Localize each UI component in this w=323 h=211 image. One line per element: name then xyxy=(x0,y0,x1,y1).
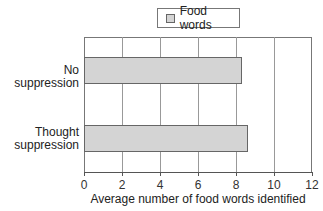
x-tick-label: 12 xyxy=(300,178,323,192)
x-tick-label: 6 xyxy=(186,178,210,192)
category-label-thought-suppression: Thought suppression xyxy=(14,126,79,152)
legend: Food words xyxy=(157,8,240,28)
gridline xyxy=(274,37,275,172)
category-label-no-suppression: No suppression xyxy=(0,64,79,90)
legend-label: Food words xyxy=(180,4,239,32)
x-tick-label: 0 xyxy=(72,178,96,192)
x-tick xyxy=(236,172,237,176)
x-tick-label: 10 xyxy=(262,178,286,192)
x-tick-label: 8 xyxy=(224,178,248,192)
x-tick xyxy=(312,172,313,176)
x-tick xyxy=(198,172,199,176)
bar-no-suppression xyxy=(84,57,242,84)
x-tick xyxy=(84,172,85,176)
x-tick-label: 2 xyxy=(110,178,134,192)
bar-thought-suppression xyxy=(84,125,248,152)
x-tick xyxy=(160,172,161,176)
category-text: No suppression xyxy=(14,63,79,90)
category-text-line2: suppression xyxy=(14,139,79,152)
x-tick xyxy=(122,172,123,176)
x-axis-title: Average number of food words identified xyxy=(84,192,312,206)
x-tick xyxy=(274,172,275,176)
legend-swatch-icon xyxy=(166,14,175,23)
x-tick-label: 4 xyxy=(148,178,172,192)
